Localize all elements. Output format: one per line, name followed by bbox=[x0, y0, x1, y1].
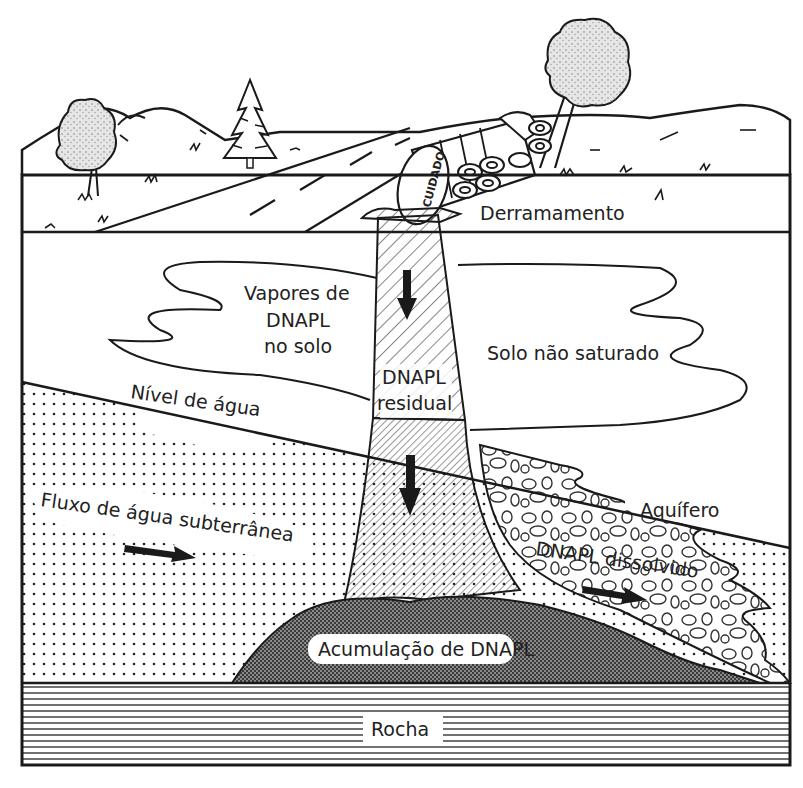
residual-label-2: residual bbox=[377, 392, 452, 414]
spill-label: Derramamento bbox=[480, 202, 625, 224]
aquifer-label: Aquífero bbox=[640, 499, 719, 521]
pine-tree-icon bbox=[224, 80, 276, 168]
soil-vapors-label-2: DNAPL bbox=[266, 309, 330, 331]
diagram-canvas: CUIDADO Derramamento A bbox=[0, 0, 803, 788]
tree-right-icon bbox=[540, 19, 630, 168]
soil-vapors-label-3: no solo bbox=[264, 335, 332, 357]
unsaturated-soil-label: Solo não saturado bbox=[487, 342, 659, 364]
soil-vapors-label-1: Vapores de bbox=[244, 282, 350, 304]
surface-landscape: CUIDADO Derramamento bbox=[22, 19, 790, 232]
bedrock-label: Rocha bbox=[371, 718, 429, 740]
pool-label: Acumulação de DNAPL bbox=[318, 638, 534, 660]
residual-label-1: DNAPL bbox=[382, 366, 446, 388]
tree-left-icon bbox=[56, 99, 116, 200]
dnapl-diagram: CUIDADO Derramamento A bbox=[0, 0, 803, 788]
